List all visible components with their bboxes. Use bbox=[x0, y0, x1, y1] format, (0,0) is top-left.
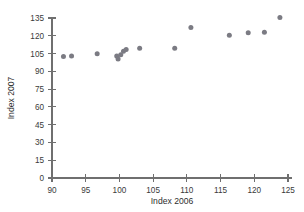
data-point bbox=[137, 46, 142, 51]
x-tick-label: 120 bbox=[247, 186, 261, 195]
y-tick-label: 30 bbox=[35, 138, 45, 147]
y-tick-label: 0 bbox=[39, 174, 44, 183]
y-axis-title: Index 2007 bbox=[6, 77, 16, 120]
data-point bbox=[246, 30, 251, 35]
data-point bbox=[95, 51, 100, 56]
data-point bbox=[188, 25, 193, 30]
x-tick-label: 95 bbox=[81, 186, 91, 195]
data-point bbox=[69, 53, 74, 58]
data-point bbox=[277, 15, 282, 20]
x-tick-label: 90 bbox=[47, 186, 57, 195]
x-tick-label: 115 bbox=[214, 186, 227, 195]
x-tick-label: 105 bbox=[146, 186, 160, 195]
chart-plot-area: 0153045607590105120135 90951001051101151… bbox=[0, 0, 304, 212]
x-axis-title: Index 2006 bbox=[151, 196, 194, 206]
y-tick-label: 90 bbox=[35, 67, 45, 76]
data-point bbox=[227, 33, 232, 38]
data-point bbox=[116, 56, 121, 61]
y-tick-label: 120 bbox=[30, 32, 44, 41]
data-point bbox=[262, 30, 267, 35]
y-tick-label: 75 bbox=[35, 85, 45, 94]
y-tick-label: 45 bbox=[35, 121, 45, 130]
data-points-group bbox=[61, 15, 282, 61]
y-tick-label: 60 bbox=[35, 103, 45, 112]
x-tick-label: 125 bbox=[281, 186, 295, 195]
data-point bbox=[124, 47, 129, 52]
y-tick-label: 135 bbox=[30, 14, 44, 23]
x-tick-label: 110 bbox=[180, 186, 193, 195]
scatter-chart-figure: 0153045607590105120135 90951001051101151… bbox=[0, 0, 304, 212]
data-point bbox=[61, 54, 66, 59]
x-tick-label: 100 bbox=[113, 186, 127, 195]
y-tick-label: 15 bbox=[35, 156, 45, 165]
x-axis-ticks: 9095100105110115120125 bbox=[47, 174, 295, 195]
y-tick-label: 105 bbox=[30, 50, 44, 59]
data-point bbox=[172, 46, 177, 51]
